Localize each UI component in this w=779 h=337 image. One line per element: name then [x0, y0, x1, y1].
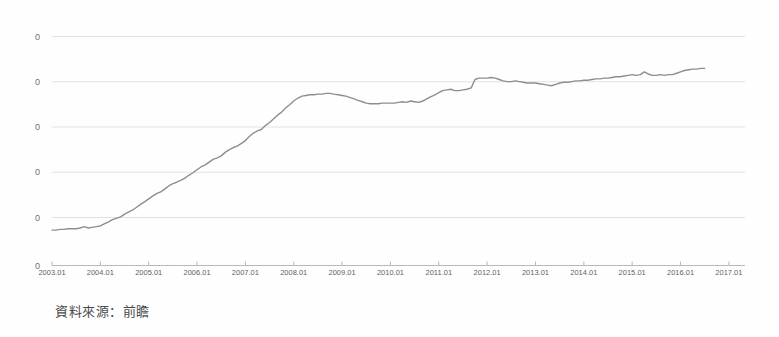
y-axis-tick-label: 0	[18, 122, 40, 132]
y-axis-tick-label: 0	[18, 77, 40, 87]
y-axis-tick-label: 0	[18, 32, 40, 42]
x-axis-tick-label: 2012.01	[474, 268, 501, 277]
x-axis-tick-label: 2005.01	[135, 268, 162, 277]
x-axis-tick-label: 2007.01	[232, 268, 259, 277]
x-axis-tick-label: 2014.01	[570, 268, 597, 277]
x-axis-tick-label: 2009.01	[329, 268, 356, 277]
x-axis-tick-label: 2010.01	[377, 268, 404, 277]
chart-plot-area: 000000 2003.012004.012005.012006.012007.…	[0, 0, 779, 290]
data-series-line	[52, 68, 705, 230]
source-caption: 資料來源：前瞻	[55, 301, 150, 320]
y-axis-tick-label: 0	[18, 261, 40, 271]
x-axis-tick-label: 2015.01	[619, 268, 646, 277]
line-chart-svg	[0, 0, 779, 290]
x-axis-tick-label: 2003.01	[38, 268, 65, 277]
y-axis-tick-label: 0	[18, 213, 40, 223]
x-axis-tick-label: 2011.01	[426, 268, 453, 277]
x-axis-tick-label: 2017.01	[715, 268, 742, 277]
x-axis-tick-label: 2013.01	[522, 268, 549, 277]
y-axis-tick-label: 0	[18, 167, 40, 177]
x-axis-tick-label: 2016.01	[667, 268, 694, 277]
x-axis-tick-label: 2008.01	[280, 268, 307, 277]
x-axis-ticks-group	[52, 262, 729, 266]
gridlines-group	[52, 37, 745, 218]
chart-figure: 000000 2003.012004.012005.012006.012007.…	[0, 0, 779, 337]
x-axis-tick-label: 2004.01	[87, 268, 114, 277]
x-axis-tick-label: 2006.01	[183, 268, 210, 277]
